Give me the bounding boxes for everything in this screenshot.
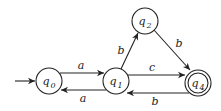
state-label: q xyxy=(191,77,198,90)
state-label: q xyxy=(42,75,49,88)
state-subscript: 2 xyxy=(145,21,151,30)
state-q1: q 1 xyxy=(103,68,129,94)
state-q2: q 2 xyxy=(132,8,158,34)
transition-label: b xyxy=(175,37,182,50)
state-subscript: 1 xyxy=(117,81,122,90)
state-subscript: 4 xyxy=(198,83,204,92)
automaton-diagram: a a b b c b q 0 xyxy=(0,0,221,111)
state-q4-accepting: q 4 xyxy=(185,70,211,96)
transition-label: a xyxy=(78,59,85,72)
transition-q4-q1: b xyxy=(127,93,189,108)
transition-label: a xyxy=(80,92,87,105)
state-q0: q 0 xyxy=(36,68,62,94)
transition-q2-q4: b xyxy=(154,30,190,70)
transition-label: b xyxy=(151,95,158,108)
transition-q1-q4: c xyxy=(128,61,185,75)
state-subscript: 0 xyxy=(50,81,55,90)
transition-label: c xyxy=(149,61,155,74)
transition-q0-q1: a xyxy=(60,59,104,73)
state-label: q xyxy=(109,75,116,88)
transition-q1-q2: b xyxy=(117,33,138,69)
transition-label: b xyxy=(117,44,124,57)
state-label: q xyxy=(138,15,145,28)
transition-q1-q0: a xyxy=(61,90,106,105)
